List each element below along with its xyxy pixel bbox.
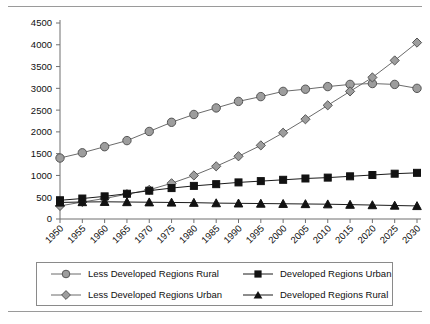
data-point-square [414, 169, 421, 176]
data-point-diamond [301, 115, 310, 124]
top-divider-rule [8, 6, 422, 7]
circle-icon [51, 268, 81, 280]
data-point-diamond [212, 162, 221, 171]
data-point-circle [257, 92, 265, 100]
y-tick-label: 2000 [31, 126, 52, 137]
legend-item-developed-regions-rural[interactable]: Developed Regions Rural [243, 289, 408, 301]
data-point-square [257, 178, 264, 185]
data-point-circle [413, 84, 421, 92]
y-axis-ticks: 050010001500200025003000350040004500 [31, 17, 60, 224]
data-point-square [324, 174, 331, 181]
bottom-divider-rule [8, 311, 422, 312]
x-tick-label: 1995 [243, 223, 266, 246]
data-point-diamond [412, 38, 421, 47]
legend-item-less-developed-regions-rural[interactable]: Less Developed Regions Rural [51, 268, 243, 280]
x-tick-label: 1985 [199, 223, 222, 246]
y-tick-label: 1500 [31, 148, 52, 159]
data-point-circle [190, 110, 198, 118]
data-point-diamond [323, 101, 332, 110]
legend-label: Developed Regions Rural [280, 290, 388, 300]
data-point-square [302, 175, 309, 182]
data-point-diamond [189, 171, 198, 180]
y-tick-label: 3500 [31, 61, 52, 72]
series-developed-regions-rural [56, 197, 422, 209]
x-tick-label: 2005 [288, 223, 311, 246]
data-point-circle [234, 97, 242, 105]
chart-legend: Less Developed Regions Rural Developed R… [36, 262, 393, 306]
data-point-circle [123, 136, 131, 144]
y-tick-label: 2500 [31, 105, 52, 116]
data-point-circle [279, 87, 287, 95]
legend-label: Less Developed Regions Rural [88, 269, 219, 279]
data-point-square [190, 182, 197, 189]
data-point-circle [390, 80, 398, 88]
data-point-circle [145, 127, 153, 135]
x-tick-label: 2020 [355, 223, 378, 246]
data-point-square [280, 176, 287, 183]
x-tick-label: 1980 [177, 223, 200, 246]
legend-label: Less Developed Regions Urban [88, 290, 222, 300]
series-line [60, 84, 417, 158]
y-tick-label: 1000 [31, 170, 52, 181]
data-point-circle [78, 149, 86, 157]
data-point-square [213, 181, 220, 188]
square-icon [243, 268, 273, 280]
data-point-diamond [234, 152, 243, 161]
x-tick-label: 1950 [43, 223, 66, 246]
data-point-square [146, 187, 153, 194]
data-point-diamond [390, 56, 399, 65]
data-point-square [369, 172, 376, 179]
diamond-icon [51, 289, 81, 301]
y-tick-label: 500 [36, 192, 52, 203]
x-tick-label: 2025 [377, 223, 400, 246]
series-line [60, 173, 417, 200]
data-point-circle [56, 154, 64, 162]
data-point-circle [212, 104, 220, 112]
data-point-square [391, 170, 398, 177]
data-point-diamond [279, 128, 288, 137]
data-point-diamond [256, 141, 265, 150]
triangle-icon [243, 289, 273, 301]
x-tick-label: 1965 [110, 223, 133, 246]
x-axis-ticks: 1950195519601965197019751980198519901995… [43, 219, 423, 245]
x-tick-label: 1975 [154, 223, 177, 246]
x-tick-label: 1990 [221, 223, 244, 246]
data-point-circle [324, 82, 332, 90]
y-tick-label: 4500 [31, 17, 52, 28]
data-point-square [123, 190, 130, 197]
legend-item-developed-regions-urban[interactable]: Developed Regions Urban [243, 268, 408, 280]
data-point-square [347, 173, 354, 180]
series-layer [55, 38, 421, 211]
y-tick-label: 3000 [31, 83, 52, 94]
data-point-circle [100, 143, 108, 151]
x-tick-label: 1955 [65, 223, 88, 246]
x-tick-label: 1970 [132, 223, 155, 246]
data-point-circle [301, 85, 309, 93]
data-point-square [168, 185, 175, 192]
line-chart: 050010001500200025003000350040004500 195… [0, 10, 430, 260]
data-point-diamond [345, 87, 354, 96]
y-tick-label: 4000 [31, 39, 52, 50]
x-tick-label: 1960 [87, 223, 110, 246]
x-tick-label: 2000 [266, 223, 289, 246]
series-less-developed-regions-rural [56, 79, 421, 162]
figure-container: 050010001500200025003000350040004500 195… [0, 0, 430, 324]
y-tick-label: 0 [47, 213, 52, 224]
legend-item-less-developed-regions-urban[interactable]: Less Developed Regions Urban [51, 289, 243, 301]
x-tick-label: 2030 [400, 223, 423, 246]
data-point-circle [167, 118, 175, 126]
data-point-square [235, 179, 242, 186]
x-tick-label: 2015 [333, 223, 356, 246]
x-tick-label: 2010 [310, 223, 333, 246]
legend-label: Developed Regions Urban [280, 269, 391, 279]
